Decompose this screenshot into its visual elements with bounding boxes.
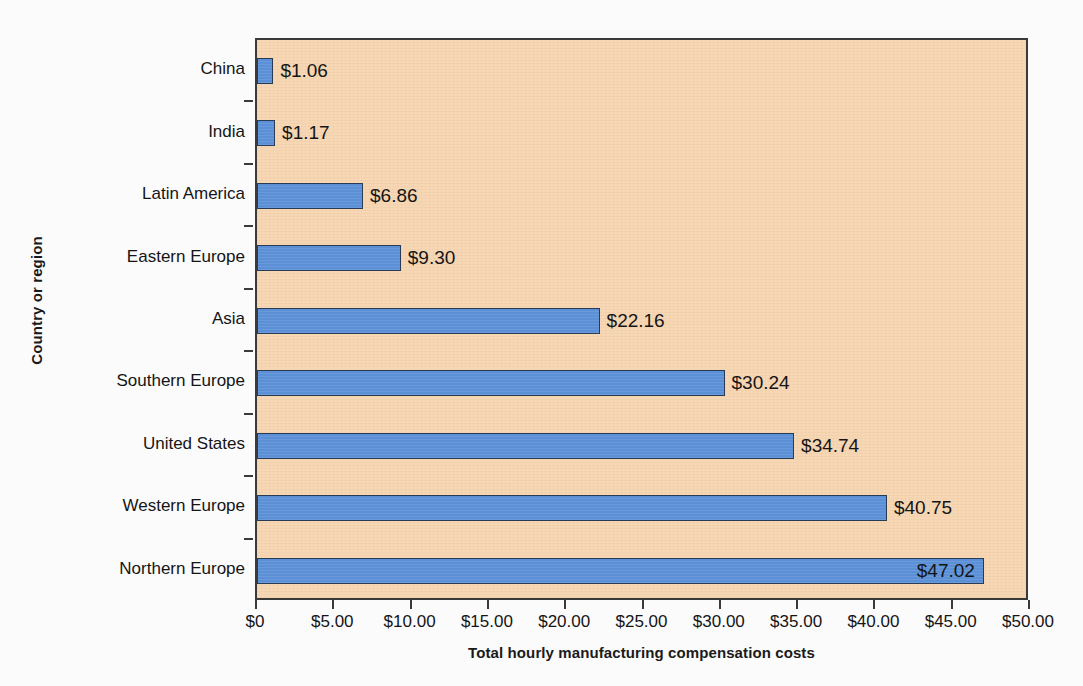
x-axis-tick [564, 600, 566, 609]
bar-texture [258, 309, 599, 333]
y-axis-category-label: Northern Europe [5, 559, 245, 579]
bar-texture [258, 559, 983, 583]
bar-row: $1.06 [257, 40, 1026, 102]
y-axis-tick [244, 413, 253, 415]
bar-texture [258, 371, 724, 395]
bar-row: $22.16 [257, 290, 1026, 352]
bar[interactable] [257, 495, 887, 521]
y-axis-category-label: India [5, 122, 245, 142]
bar[interactable] [257, 58, 273, 84]
x-axis-tick-labels: $0$5.00$10.00$15.00$20.00$25.00$30.00$35… [255, 612, 1028, 636]
bar-value-label: $1.06 [273, 58, 328, 84]
x-axis-tick-label: $50.00 [1002, 612, 1054, 632]
bar[interactable] [257, 308, 600, 334]
bar-value-label: $1.17 [275, 120, 330, 146]
bar-row: $40.75 [257, 477, 1026, 539]
x-axis-tick-label: $10.00 [384, 612, 436, 632]
x-axis-tick [332, 600, 334, 609]
bar-value-label: $9.30 [401, 245, 456, 271]
y-axis-tick [244, 163, 253, 165]
x-axis-tick-label: $15.00 [461, 612, 513, 632]
bar-texture [258, 434, 793, 458]
y-axis-category-label: Western Europe [5, 496, 245, 516]
y-axis-category-label: Latin America [5, 184, 245, 204]
bar-value-label: $6.86 [363, 183, 418, 209]
y-axis-tick [244, 538, 253, 540]
y-axis-tick [244, 225, 253, 227]
x-axis-tick [410, 600, 412, 609]
bar[interactable] [257, 245, 401, 271]
y-axis-tick [244, 475, 253, 477]
bar-texture [258, 184, 362, 208]
x-axis-tick-label: $0 [246, 612, 265, 632]
x-axis-tick-label: $5.00 [311, 612, 354, 632]
bar[interactable] [257, 558, 984, 584]
bar-texture [258, 121, 274, 145]
x-axis-tick [642, 600, 644, 609]
bar[interactable] [257, 183, 363, 209]
bar-row: $1.17 [257, 102, 1026, 164]
bar-texture [258, 59, 272, 83]
y-axis-category-label: Eastern Europe [5, 247, 245, 267]
bar-row: $47.02 [257, 540, 1026, 602]
bar-value-label: $30.24 [725, 370, 790, 396]
plot-area: $1.06$1.17$6.86$9.30$22.16$30.24$34.74$4… [255, 38, 1028, 600]
y-axis-tick [244, 350, 253, 352]
y-axis-tick [244, 288, 253, 290]
y-axis-tick [244, 100, 253, 102]
bar-row: $30.24 [257, 352, 1026, 414]
x-axis-tick-label: $30.00 [693, 612, 745, 632]
x-axis-tick-label: $25.00 [616, 612, 668, 632]
bar-value-label: $40.75 [887, 495, 952, 521]
x-axis-title: Total hourly manufacturing compensation … [255, 644, 1028, 661]
x-axis-tick [873, 600, 875, 609]
x-axis-tick [1028, 600, 1030, 609]
x-axis-tick [719, 600, 721, 609]
y-axis-category-label: China [5, 59, 245, 79]
x-axis-tick-label: $40.00 [847, 612, 899, 632]
bar[interactable] [257, 370, 725, 396]
y-axis-category-label: United States [5, 434, 245, 454]
x-axis-ticks [255, 600, 1028, 610]
x-axis-tick-label: $35.00 [770, 612, 822, 632]
bar-texture [258, 496, 886, 520]
y-axis-category-label: Southern Europe [5, 371, 245, 391]
x-axis-tick [487, 600, 489, 609]
x-axis-tick [255, 600, 257, 609]
bar-row: $9.30 [257, 227, 1026, 289]
y-axis-category-label: Asia [5, 309, 245, 329]
bar-texture [258, 246, 400, 270]
bar-chart-figure: Country or region ChinaIndiaLatin Americ… [0, 0, 1083, 686]
bar-value-label: $47.02 [917, 558, 984, 584]
x-axis-tick [951, 600, 953, 609]
y-axis-category-labels: ChinaIndiaLatin AmericaEastern EuropeAsi… [0, 38, 245, 600]
x-axis-tick-label: $45.00 [925, 612, 977, 632]
bar-value-label: $34.74 [794, 433, 859, 459]
bar-row: $34.74 [257, 415, 1026, 477]
x-axis-tick-label: $20.00 [538, 612, 590, 632]
bar-row: $6.86 [257, 165, 1026, 227]
x-axis-tick [796, 600, 798, 609]
bar[interactable] [257, 120, 275, 146]
bar[interactable] [257, 433, 794, 459]
bar-value-label: $22.16 [600, 308, 665, 334]
